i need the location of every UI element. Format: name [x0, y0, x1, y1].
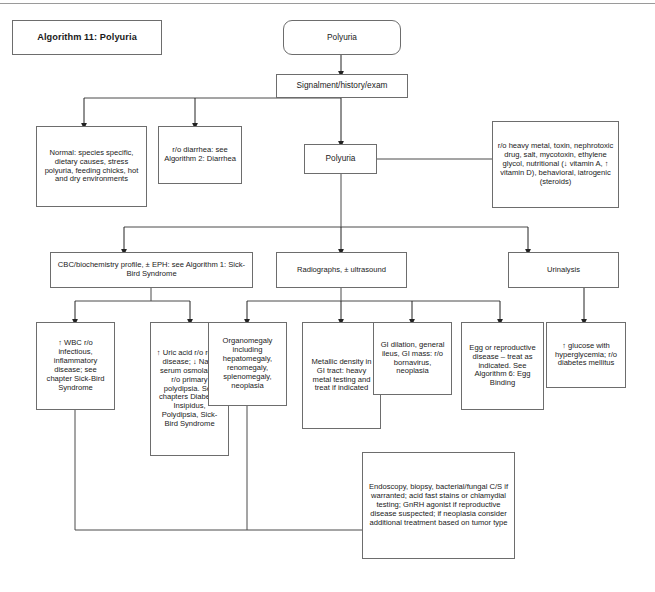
- top-divider-rule: [0, 3, 655, 4]
- algorithm-title-text: Algorithm 11: Polyuria: [37, 32, 137, 43]
- node-signalment-label: Signalment/history/exam: [297, 81, 388, 91]
- node-elevated-wbc: ↑ WBC r/o infectious, inflammatory disea…: [36, 322, 115, 410]
- algorithm-title-box: Algorithm 11: Polyuria: [12, 20, 162, 55]
- node-metallic-density: Metallic density in GI tract: heavy meta…: [302, 322, 381, 429]
- node-cbc-biochemistry-label: CBC/biochemistry profile, ± EPH: see Alg…: [55, 261, 248, 279]
- node-gi-dilation: GI dilation, general ileus, GI mass: r/o…: [373, 322, 452, 395]
- node-signalment: Signalment/history/exam: [276, 74, 408, 98]
- node-urinalysis: Urinalysis: [508, 252, 619, 288]
- flowchart-canvas: Algorithm 11: Polyuria Polyuria Signalme…: [0, 0, 655, 592]
- node-urinalysis-label: Urinalysis: [547, 266, 580, 275]
- node-ruleout-diarrhea: r/o diarrhea: see Algorithm 2: Diarrhea: [158, 126, 242, 184]
- node-normal-causes-label: Normal: species specific, dietary causes…: [41, 149, 142, 185]
- node-egg-reproductive-label: Egg or reproductive disease – treat as i…: [466, 344, 539, 389]
- node-toxic-ruleouts: r/o heavy metal, toxin, nephrotoxic drug…: [492, 121, 619, 208]
- node-metallic-density-label: Metallic density in GI tract: heavy meta…: [307, 358, 376, 394]
- node-elevated-glucose: ↑ glucose with hyperglycemia; r/o diabet…: [546, 322, 626, 388]
- node-start-polyuria: Polyuria: [283, 20, 401, 55]
- node-polyuria-confirmed: Polyuria: [304, 144, 377, 174]
- node-ruleout-diarrhea-label: r/o diarrhea: see Algorithm 2: Diarrhea: [163, 146, 237, 164]
- node-gi-dilation-label: GI dilation, general ileus, GI mass: r/o…: [378, 341, 447, 377]
- node-elevated-glucose-label: ↑ glucose with hyperglycemia; r/o diabet…: [551, 342, 621, 369]
- node-start-polyuria-label: Polyuria: [327, 33, 357, 43]
- node-cbc-biochemistry: CBC/biochemistry profile, ± EPH: see Alg…: [50, 252, 253, 288]
- node-elevated-wbc-label: ↑ WBC r/o infectious, inflammatory disea…: [41, 339, 110, 393]
- node-egg-reproductive: Egg or reproductive disease – treat as i…: [461, 322, 544, 410]
- node-radiographs: Radiographs, ± ultrasound: [276, 252, 407, 288]
- node-endoscopy-biopsy: Endoscopy, biopsy, bacterial/fungal C/S …: [362, 452, 515, 559]
- node-polyuria-confirmed-label: Polyuria: [326, 154, 356, 164]
- node-organomegaly-label: Organomegaly including hepatomegaly, ren…: [213, 337, 282, 391]
- node-endoscopy-biopsy-label: Endoscopy, biopsy, bacterial/fungal C/S …: [367, 483, 510, 528]
- node-organomegaly: Organomegaly including hepatomegaly, ren…: [208, 322, 287, 406]
- node-toxic-ruleouts-label: r/o heavy metal, toxin, nephrotoxic drug…: [497, 142, 614, 187]
- node-normal-causes: Normal: species specific, dietary causes…: [36, 126, 147, 207]
- node-radiographs-label: Radiographs, ± ultrasound: [297, 266, 386, 275]
